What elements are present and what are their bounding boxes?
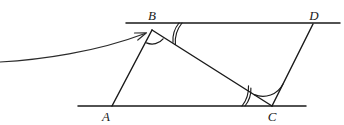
vertex-label-b: B — [148, 8, 156, 23]
vertex-label-d: D — [308, 8, 319, 23]
angle-mark-dbc-double-outer — [173, 23, 179, 42]
figure-canvas: B D A C — [0, 0, 344, 125]
segment-cd — [272, 24, 313, 106]
vertex-label-a: A — [101, 109, 110, 124]
angle-mark-abc-single — [147, 39, 164, 44]
geometry-figure: B D A C — [0, 0, 344, 125]
annotation-arrow-curve — [0, 34, 145, 63]
angle-mark-bcd-single — [254, 84, 283, 96]
vertex-label-c: C — [268, 109, 277, 124]
segment-ab — [112, 30, 152, 106]
